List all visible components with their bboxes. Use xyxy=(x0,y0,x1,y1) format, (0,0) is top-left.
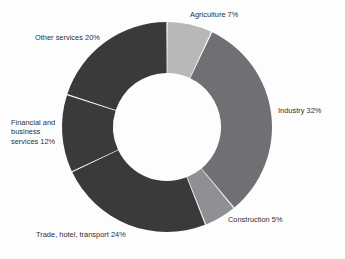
slice-label-agriculture: Agriculture 7% xyxy=(190,10,238,19)
donut-slices-group xyxy=(62,22,272,232)
slice-label-construction: Construction 5% xyxy=(228,215,283,224)
slice-label-trade-hotel-transport: Trade, hotel, transport 24% xyxy=(36,230,126,239)
slice-label-industry: Industry 32% xyxy=(278,106,321,115)
donut-chart: Agriculture 7% Industry 32% Construction… xyxy=(0,0,345,259)
slice-label-financial-and-business-services: Financial and business services 12% xyxy=(11,118,73,146)
slice-label-other-services: Other services 20% xyxy=(35,33,100,42)
donut-slice xyxy=(72,150,205,232)
